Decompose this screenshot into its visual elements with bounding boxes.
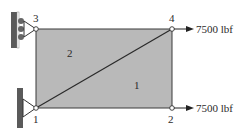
node-label-4: 4 (169, 13, 175, 24)
element-label-2: 2 (67, 48, 73, 59)
node-label-2: 2 (168, 114, 174, 125)
element-label-1: 1 (134, 80, 140, 91)
node-3-icon (34, 27, 39, 32)
node-1-icon (34, 106, 39, 111)
node-label-3: 3 (33, 13, 39, 24)
load-arrow-node-4-icon (174, 26, 194, 32)
load-label-node-2: 7500 lbf (196, 103, 233, 114)
load-label-node-4: 7500 lbf (196, 24, 233, 35)
node-label-1: 1 (33, 114, 39, 125)
fem-diagram: 3 4 1 2 2 1 7500 lbf 7500 lbf (0, 0, 243, 132)
load-arrow-node-2-icon (174, 105, 194, 111)
node-2-icon (170, 106, 175, 111)
node-4-icon (170, 27, 175, 32)
